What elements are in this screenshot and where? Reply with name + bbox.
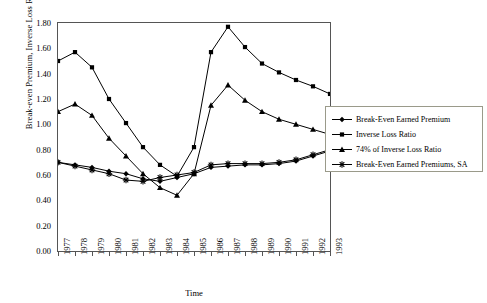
x-tick-mark [58,252,59,256]
data-point-marker [259,109,265,114]
data-point-marker [276,159,282,165]
data-point-marker [106,171,112,177]
data-point-marker [209,50,213,54]
x-tick-label: 1987 [232,238,242,255]
data-point-marker [73,50,77,54]
legend-item[interactable]: 74% of Inverse Loss Ratio [331,142,482,157]
data-point-marker [310,152,316,158]
data-point-marker [89,112,95,117]
data-point-marker [192,145,196,149]
y-tick-label: 1.80 [17,18,51,28]
x-tick-label: 1991 [300,238,310,255]
x-tick-mark [296,252,297,256]
data-point-marker [72,163,78,169]
data-point-marker [311,84,315,88]
x-tick-label: 1993 [334,238,344,255]
series-line [58,27,330,176]
x-tick-label: 1980 [113,238,123,255]
x-tick-label: 1990 [283,238,293,255]
x-tick-mark [177,252,178,256]
x-tick-label: 1992 [317,238,327,255]
data-point-marker [157,174,163,180]
data-point-marker [226,25,230,29]
plot-area [57,22,331,252]
data-point-marker [140,178,146,184]
data-point-marker [294,78,298,82]
x-tick-mark [211,252,212,256]
y-tick-label: 0.80 [17,145,51,155]
x-tick-label: 1977 [62,238,72,255]
x-tick-mark [262,252,263,256]
data-point-marker [259,160,265,166]
x-tick-mark [143,252,144,256]
x-tick-mark [245,252,246,256]
x-tick-mark [228,252,229,256]
legend-marker-triangle-icon [331,144,353,155]
series-line [58,151,330,181]
data-point-marker [58,59,60,63]
x-tick-label: 1983 [164,238,174,255]
data-point-marker [141,145,145,149]
data-point-marker [277,70,281,74]
legend-item[interactable]: Inverse Loss Ratio [331,127,482,142]
data-point-marker [293,157,299,163]
legend-label: Break-Even Earned Premiums, SA [356,160,468,170]
x-tick-label: 1988 [249,238,259,255]
data-point-marker [124,121,128,125]
chart-figure: Break-even Premium, Inverse Loss Ratio 0… [0,0,487,303]
data-point-marker [72,101,78,106]
legend-item[interactable]: Break-Even Earned Premiums, SA [331,157,482,172]
x-tick-label: 1979 [96,238,106,255]
y-tick-label: 0.00 [17,246,51,256]
y-tick-label: 1.60 [17,43,51,53]
legend-label: 74% of Inverse Loss Ratio [356,145,441,155]
x-tick-label: 1984 [181,238,191,255]
legend-label: Inverse Loss Ratio [356,130,416,140]
x-tick-label: 1985 [198,238,208,255]
data-point-marker [191,169,197,175]
x-tick-mark [194,252,195,256]
x-axis-title: Time [57,288,331,298]
x-tick-mark [109,252,110,256]
data-point-marker [260,61,264,65]
legend-item[interactable]: Break-Even Earned Premium [331,112,482,127]
series-line [58,150,330,182]
data-point-marker [58,159,61,165]
data-point-marker [225,160,231,166]
data-point-marker [208,162,214,168]
x-tick-label: 1986 [215,238,225,255]
data-point-marker [174,172,180,178]
y-tick-label: 0.20 [17,221,51,231]
x-tick-mark [75,252,76,256]
y-tick-label: 0.60 [17,170,51,180]
x-tick-mark [279,252,280,256]
data-point-marker [276,116,282,121]
data-point-marker [123,177,129,183]
legend: Break-Even Earned PremiumInverse Loss Ra… [325,106,483,172]
x-tick-mark [313,252,314,256]
y-tick-label: 1.00 [17,119,51,129]
series-lines [58,23,330,251]
x-tick-mark [92,252,93,256]
legend-marker-star-icon [331,159,353,170]
x-tick-mark [330,252,331,256]
series-line [58,85,330,195]
y-tick-label: 1.20 [17,94,51,104]
data-point-marker [89,167,95,173]
data-point-marker [242,160,248,166]
y-tick-label: 1.40 [17,69,51,79]
y-tick-label: 0.40 [17,195,51,205]
x-tick-label: 1978 [79,238,89,255]
x-tick-mark [126,252,127,256]
x-tick-label: 1989 [266,238,276,255]
data-point-marker [90,65,94,69]
legend-marker-diamond-icon [331,114,353,125]
data-point-marker [328,92,330,96]
data-point-marker [243,45,247,49]
data-point-marker [225,82,231,87]
data-point-marker [123,171,128,176]
legend-marker-square-icon [331,129,353,140]
data-point-marker [107,97,111,101]
data-point-marker [158,163,162,167]
data-point-marker [58,109,61,114]
